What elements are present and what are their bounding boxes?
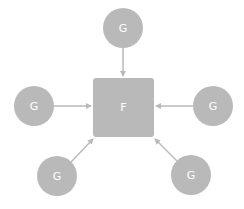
node-g-top[interactable]: G — [103, 8, 143, 48]
node-label: G — [53, 170, 62, 183]
diagram-canvas: F G G G G G — [0, 0, 244, 209]
center-node-label: F — [120, 101, 126, 114]
node-g-bottom-right[interactable]: G — [171, 155, 211, 195]
node-label: G — [209, 100, 218, 113]
edge-bottom-left-to-f — [71, 139, 93, 162]
node-label: G — [30, 100, 39, 113]
node-g-right[interactable]: G — [193, 86, 233, 126]
node-g-bottom-left[interactable]: G — [37, 156, 77, 196]
edge-bottom-right-to-f — [155, 139, 177, 161]
center-node-f[interactable]: F — [93, 78, 154, 137]
node-label: G — [187, 169, 196, 182]
node-g-left[interactable]: G — [14, 86, 54, 126]
node-label: G — [119, 22, 128, 35]
